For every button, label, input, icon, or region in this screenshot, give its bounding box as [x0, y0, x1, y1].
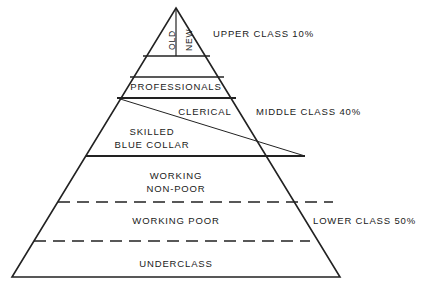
new-money-label: NEW	[184, 29, 194, 51]
pyramid-geometry	[0, 0, 423, 295]
middle-class-label: MIDDLE CLASS 40%	[256, 106, 361, 118]
working-non-poor-label-line1: WORKING	[150, 170, 202, 182]
clerical-label: CLERICAL	[178, 106, 231, 118]
old-money-label: OLD	[167, 30, 177, 50]
working-poor-label: WORKING POOR	[132, 215, 219, 227]
working-non-poor-label-line2: NON-POOR	[146, 183, 205, 195]
professionals-label: PROFESSIONALS	[130, 81, 221, 93]
lower-class-label: LOWER CLASS 50%	[313, 215, 416, 227]
social-class-pyramid-diagram: OLD NEW PROFESSIONALS CLERICAL SKILLED B…	[0, 0, 423, 295]
skilled-blue-collar-label-line2: BLUE COLLAR	[115, 139, 190, 151]
skilled-blue-collar-label-line1: SKILLED	[129, 126, 174, 138]
upper-class-label: UPPER CLASS 10%	[213, 28, 314, 40]
underclass-label: UNDERCLASS	[139, 258, 212, 270]
